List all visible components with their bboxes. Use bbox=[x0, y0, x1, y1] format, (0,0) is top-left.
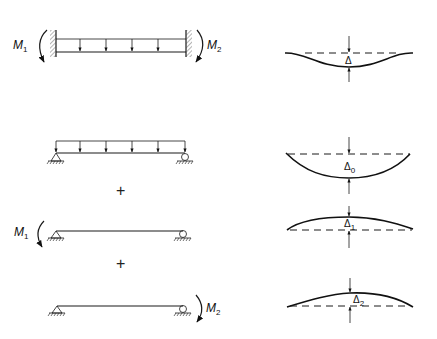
simple-beam-m2-figure: M2 bbox=[48, 295, 221, 322]
simple-beam-m1-figure: M1 bbox=[14, 221, 191, 247]
distributed-load-arrows bbox=[80, 39, 158, 51]
fixed-beam-figure: M1 M2 bbox=[13, 30, 222, 62]
simple-beam-load-figure bbox=[47, 141, 193, 164]
moment-m2-label: M2 bbox=[206, 301, 221, 317]
moment-m1-arrow-icon bbox=[38, 221, 44, 247]
roller-support-icon bbox=[176, 154, 193, 165]
deflection-simple-m1: Δ1 bbox=[287, 206, 413, 248]
moment-m1-arrow-icon bbox=[40, 30, 47, 62]
moment-m2-arrow-icon bbox=[196, 295, 202, 322]
moment-m1-label: M1 bbox=[13, 38, 28, 54]
deflection-simple-load: Δ0 bbox=[286, 137, 410, 194]
moment-m2-arrow-icon bbox=[196, 30, 203, 62]
delta-1-label: Δ1 bbox=[344, 218, 356, 232]
moment-m2-label: M2 bbox=[207, 38, 222, 54]
plus-operator-2: + bbox=[116, 255, 125, 272]
deflection-fixed-beam: Δ bbox=[285, 36, 413, 82]
pin-support-icon bbox=[48, 306, 65, 316]
distributed-load-arrows bbox=[56, 141, 185, 152]
pin-support-icon bbox=[47, 153, 64, 164]
delta-0-label: Δ0 bbox=[344, 161, 356, 175]
moment-m1-label: M1 bbox=[14, 225, 29, 241]
delta-label: Δ bbox=[345, 55, 352, 66]
deflected-shape bbox=[287, 293, 413, 307]
roller-support-icon bbox=[174, 306, 191, 317]
left-fixed-wall bbox=[50, 30, 56, 57]
plus-operator-1: + bbox=[116, 182, 125, 199]
roller-support-icon bbox=[174, 231, 191, 242]
superposition-diagram: M1 M2 Δ bbox=[0, 0, 437, 339]
deflection-simple-m2: Δ2 bbox=[287, 278, 413, 323]
right-fixed-wall bbox=[186, 30, 192, 57]
pin-support-icon bbox=[47, 231, 64, 241]
